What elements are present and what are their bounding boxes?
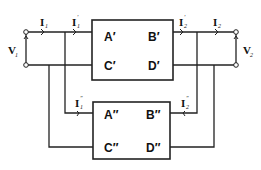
label-i2-prime: I 2 ′ — [179, 14, 187, 29]
param-d-prime: D′ — [148, 59, 160, 73]
label-v2: V 2 — [243, 44, 253, 58]
param-b-prime: B′ — [148, 30, 160, 44]
svg-text:′: ′ — [77, 14, 79, 20]
label-i1: I 1 — [40, 16, 48, 29]
svg-text:2: 2 — [186, 104, 189, 110]
param-b-double-prime: B″ — [146, 108, 161, 122]
svg-text:I: I — [213, 16, 217, 28]
label-i2-double-prime: I 2 ″ — [181, 95, 189, 110]
svg-text:2: 2 — [218, 23, 221, 29]
svg-text:″: ″ — [80, 95, 83, 101]
circuit-diagram: A′ B′ C′ D′ A″ B″ C″ D″ I 1 I 1 ′ I 2 ′ … — [0, 0, 261, 170]
svg-text:″: ″ — [186, 95, 189, 101]
svg-text:1: 1 — [15, 52, 18, 58]
label-i2: I 2 — [213, 16, 221, 29]
svg-text:I: I — [75, 97, 79, 109]
param-d-double-prime: D″ — [146, 141, 161, 155]
input-terminal-bottom — [24, 63, 29, 68]
svg-text:′: ′ — [184, 14, 186, 20]
svg-text:I: I — [181, 97, 185, 109]
output-terminal-bottom — [234, 63, 239, 68]
label-i1-double-prime: I 1 ″ — [75, 95, 83, 110]
param-a-double-prime: A″ — [104, 108, 119, 122]
svg-text:1: 1 — [45, 23, 48, 29]
svg-text:I: I — [179, 16, 183, 28]
svg-text:I: I — [40, 16, 44, 28]
svg-text:1: 1 — [77, 23, 80, 29]
left-bottom-branch — [49, 65, 93, 147]
param-c-double-prime: C″ — [104, 141, 119, 155]
svg-text:2: 2 — [184, 23, 187, 29]
input-terminal-top — [24, 30, 29, 35]
param-a-prime: A′ — [104, 30, 116, 44]
svg-text:I: I — [72, 16, 76, 28]
label-i1-prime: I 1 ′ — [72, 14, 80, 29]
right-bottom-branch — [170, 65, 214, 147]
label-v1: V 1 — [8, 44, 18, 58]
param-c-prime: C′ — [104, 59, 116, 73]
svg-text:2: 2 — [250, 52, 253, 58]
output-terminal-top — [234, 30, 239, 35]
svg-text:1: 1 — [80, 104, 83, 110]
